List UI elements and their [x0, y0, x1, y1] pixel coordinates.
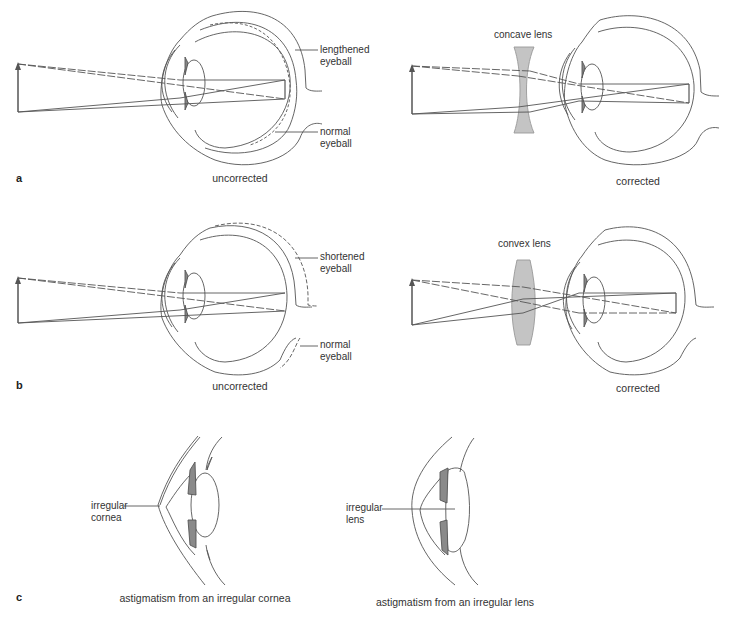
label-normal-eyeball-b: normal eyeball	[320, 339, 352, 363]
panel-b-corrected-eye	[409, 227, 714, 375]
caption-c-cornea: astigmatism from an irregular cornea	[105, 592, 305, 604]
label-text: lengthened	[320, 44, 370, 56]
caption-c-lens: astigmatism from an irregular lens	[355, 596, 555, 608]
label-text: shortened	[320, 251, 364, 263]
label-text: irregular	[91, 500, 128, 512]
eye-diagram-figure	[0, 0, 729, 621]
label-text: normal	[320, 339, 352, 351]
label-normal-eyeball-a: normal eyeball	[320, 126, 352, 150]
panel-c-lens-eye	[382, 437, 478, 585]
label-text: cornea	[91, 512, 128, 524]
label-shortened-eyeball: shortened eyeball	[320, 251, 364, 275]
label-text: eyeball	[320, 351, 352, 363]
panel-a-uncorrected-eye	[15, 11, 322, 164]
label-text: eyeball	[320, 263, 364, 275]
concave-lens	[514, 47, 534, 133]
label-text: eyeball	[320, 138, 352, 150]
panel-a-corrected-eye	[409, 16, 719, 165]
panel-letter-c: c	[16, 591, 22, 603]
label-lengthened-eyeball: lengthened eyeball	[320, 44, 370, 68]
label-concave-lens: concave lens	[494, 29, 552, 41]
panel-c-cornea-eye	[124, 436, 225, 585]
panel-b-uncorrected-eye	[15, 223, 318, 375]
label-text: irregular	[346, 502, 383, 514]
caption-a-corrected: corrected	[608, 175, 668, 187]
panel-letter-a: a	[16, 172, 22, 184]
label-irregular-cornea: irregular cornea	[91, 500, 128, 524]
label-text: lens	[346, 514, 383, 526]
caption-b-corrected: corrected	[608, 382, 668, 394]
label-convex-lens: convex lens	[498, 238, 551, 250]
label-text: eyeball	[320, 56, 370, 68]
label-text: normal	[320, 126, 352, 138]
caption-a-uncorrected: uncorrected	[200, 172, 280, 184]
caption-b-uncorrected: uncorrected	[200, 380, 280, 392]
label-irregular-lens: irregular lens	[346, 502, 383, 526]
panel-letter-b: b	[16, 379, 23, 391]
